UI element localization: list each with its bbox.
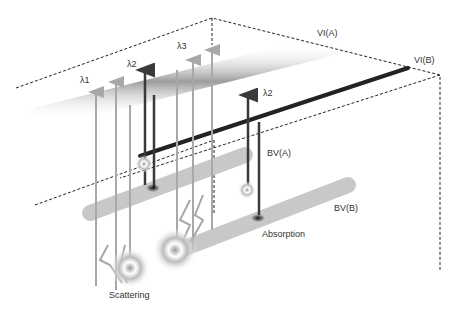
absorption-dot-1 bbox=[146, 184, 160, 192]
label-bv-b: BV(B) bbox=[334, 203, 358, 213]
label-scattering: Scattering bbox=[109, 290, 150, 300]
label-lambda2-right: λ2 bbox=[263, 88, 273, 98]
halo-small-1 bbox=[135, 155, 153, 173]
scatter-halo-1 bbox=[110, 248, 150, 288]
vessel-bv-a bbox=[90, 155, 245, 213]
label-vi-a: VI(A) bbox=[317, 28, 338, 38]
label-bv-a: BV(A) bbox=[267, 148, 291, 158]
scatter-halo-2 bbox=[153, 228, 197, 272]
absorption-dot-2 bbox=[251, 214, 265, 222]
label-lambda2-left: λ2 bbox=[127, 59, 137, 69]
halo-small-2 bbox=[238, 181, 256, 199]
diagram-canvas bbox=[0, 0, 455, 315]
label-lambda1: λ1 bbox=[80, 75, 90, 85]
label-vi-b: VI(B) bbox=[414, 55, 435, 65]
label-absorption: Absorption bbox=[262, 229, 305, 239]
label-lambda3: λ3 bbox=[177, 41, 187, 51]
